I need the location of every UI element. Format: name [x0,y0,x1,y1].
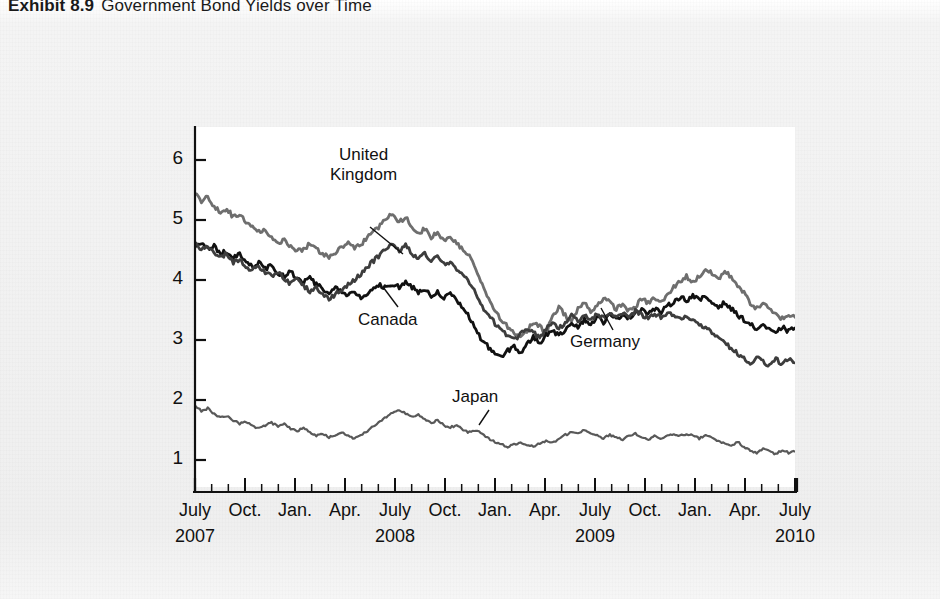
annotation-leader-line [601,308,613,330]
annotation-line: Japan [452,387,498,407]
series-annotation-germany: Germany [570,332,640,352]
y-tick-label: 1 [155,447,183,469]
x-tick-month-label: July [755,500,835,521]
exhibit-caption: Exhibit 8.9Government Bond Yields over T… [8,0,372,16]
exhibit-number: Exhibit 8.9 [8,0,94,15]
x-tick-year-label: 2010 [755,526,835,547]
annotation-leader-line [370,227,403,254]
annotation-leader-line [383,287,398,307]
annotation-line: United [330,145,397,165]
annotation-line: Kingdom [330,165,397,185]
y-tick-label: 2 [155,387,183,409]
axes-svg [0,22,940,577]
exhibit-title: Government Bond Yields over Time [101,0,372,15]
x-tick-year-label: 2008 [355,526,435,547]
annotation-line: Canada [358,310,418,330]
figure-panel: Percent 123456 JulyOct.Jan.Apr.JulyOct.J… [0,22,940,577]
x-tick-year-label: 2009 [555,526,635,547]
y-tick-label: 5 [155,207,183,229]
y-tick-label: 4 [155,267,183,289]
x-tick-year-label: 2007 [155,526,235,547]
y-tick-label: 6 [155,147,183,169]
series-annotation-canada: Canada [358,310,418,330]
annotation-leader-line [479,410,489,425]
series-annotation-united-kingdom: UnitedKingdom [330,145,397,184]
annotation-line: Germany [570,332,640,352]
series-annotation-japan: Japan [452,387,498,407]
y-tick-label: 3 [155,327,183,349]
